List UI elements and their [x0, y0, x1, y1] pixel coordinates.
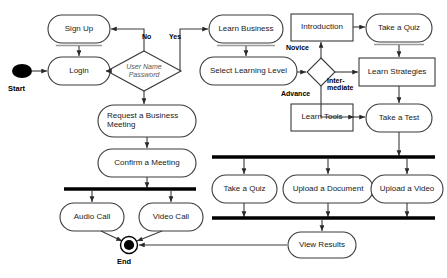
action-node-take-a-quiz-top[interactable]	[366, 14, 432, 42]
action-node-learn-business[interactable]	[209, 15, 283, 43]
action-node-confirm-a-meeting[interactable]	[98, 149, 196, 177]
action-node-audio-call[interactable]	[60, 203, 124, 231]
terminal-label-start-label: Start	[8, 84, 25, 93]
edge-label-label-no: No	[142, 33, 151, 40]
edge-label-label-novice: Novice	[286, 44, 309, 51]
action-node-upload-a-video[interactable]	[371, 175, 443, 203]
edge-label-label-advance: Advance	[281, 90, 310, 97]
final-node-core[interactable]	[124, 240, 134, 250]
action-node-request-business-meeting[interactable]	[98, 105, 196, 137]
action-node-learn-strategies[interactable]	[359, 58, 435, 86]
edge-decision-signup	[111, 29, 144, 51]
edge-audio-end	[101, 231, 122, 241]
action-node-take-a-test[interactable]	[366, 104, 432, 132]
action-node-upload-a-document[interactable]	[283, 175, 373, 203]
decision-label-credentials: User Name Password	[107, 51, 181, 91]
edge-video-end	[137, 231, 162, 241]
action-node-view-results[interactable]	[288, 232, 356, 258]
action-node-select-learning-level[interactable]	[200, 57, 297, 85]
terminal-label-end-label: End	[117, 257, 131, 266]
action-node-introduction[interactable]	[291, 14, 353, 41]
action-node-sign-up[interactable]	[48, 15, 110, 43]
action-node-login[interactable]	[48, 57, 110, 85]
diagram-vector-layer	[0, 0, 447, 278]
initial-node[interactable]	[12, 64, 32, 78]
action-node-take-a-quiz-bottom[interactable]	[212, 175, 277, 203]
edge-label-label-intermediate: Inter- mediate	[327, 77, 353, 92]
activity-diagram-canvas: Sign UpLoginRequest a Business MeetingCo…	[0, 0, 447, 278]
edge-label-label-yes: Yes	[169, 33, 181, 40]
action-node-video-call[interactable]	[139, 203, 203, 231]
